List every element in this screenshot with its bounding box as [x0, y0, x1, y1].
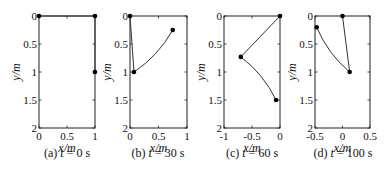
x-tick-label: 1: [92, 130, 98, 142]
y-tick-label: 0: [32, 10, 38, 22]
node-marker: [278, 14, 283, 19]
caption-d: (d) t = 100 s: [314, 146, 373, 161]
x-tick-label: 0.5: [363, 130, 377, 142]
node-marker: [170, 28, 175, 33]
node-marker: [132, 70, 137, 75]
x-tick-label: 0: [36, 130, 42, 142]
y-axis-label: y/m: [9, 63, 23, 82]
cable-segment-1: [343, 16, 350, 72]
caption-d-value: = 100 s: [337, 146, 372, 160]
y-tick-label: 0: [217, 10, 223, 22]
y-tick-label: 1.5: [299, 94, 313, 106]
caption-a-value: = 0 s: [67, 146, 90, 160]
x-tick-label: -1: [219, 130, 228, 142]
caption-c-value: = 60 s: [249, 146, 278, 160]
y-tick-label: 1: [217, 66, 223, 78]
node-marker: [274, 98, 279, 103]
cable-segment-2: [134, 30, 173, 72]
x-tick-label: -0.5: [306, 130, 324, 142]
y-tick-label: 1: [32, 66, 38, 78]
panel-c: 00.511.52-1-0.50x/my/m: [194, 10, 283, 155]
x-tick-label: 0: [277, 130, 283, 142]
caption-c-var: t: [242, 146, 245, 160]
caption-b-label: (b): [132, 146, 146, 160]
caption-a-var: t: [60, 146, 63, 160]
node-marker: [239, 55, 244, 60]
y-axis-label: y/m: [285, 63, 299, 82]
caption-a: (a) t = 0 s: [44, 146, 90, 161]
caption-b-value: = 30 s: [155, 146, 184, 160]
panel-b: 00.511.5200.51x/my/m: [100, 10, 190, 155]
y-tick-label: 1: [123, 66, 129, 78]
cable-segment-2: [241, 57, 276, 100]
caption-c-label: (c): [226, 146, 239, 160]
y-tick-label: 1: [308, 66, 314, 78]
node-marker: [128, 14, 133, 19]
axes-box: [39, 16, 95, 128]
caption-d-var: t: [331, 146, 334, 160]
y-axis-label: y/m: [100, 63, 114, 82]
node-marker: [340, 14, 345, 19]
node-marker: [93, 70, 98, 75]
panel-a: 00.511.5200.51x/my/m: [9, 10, 98, 155]
y-tick-label: 0.5: [23, 38, 37, 50]
caption-c: (c) t = 60 s: [226, 146, 278, 161]
y-tick-label: 1.5: [208, 94, 222, 106]
x-tick-label: 0: [127, 130, 133, 142]
y-axis-label: y/m: [194, 63, 208, 82]
caption-d-label: (d): [314, 146, 328, 160]
y-tick-label: 0.5: [299, 38, 313, 50]
node-marker: [347, 70, 352, 75]
y-tick-label: 0: [123, 10, 129, 22]
caption-a-label: (a): [44, 146, 57, 160]
x-tick-label: 1: [184, 130, 190, 142]
y-tick-label: 0: [308, 10, 314, 22]
cable-segment-1: [241, 16, 280, 57]
y-tick-label: 1.5: [23, 94, 37, 106]
node-marker: [37, 14, 42, 19]
caption-b: (b) t = 30 s: [132, 146, 185, 161]
node-marker: [93, 14, 98, 19]
axes-box: [224, 16, 280, 128]
figure: 00.511.5200.51x/my/m00.511.5200.51x/my/m…: [0, 0, 392, 182]
y-tick-label: 0.5: [208, 38, 222, 50]
caption-b-var: t: [149, 146, 152, 160]
axes-box: [130, 16, 187, 128]
node-marker: [314, 25, 319, 30]
y-tick-label: 1.5: [114, 94, 128, 106]
panel-d: 00.511.52-0.500.5x/my/m: [285, 10, 377, 155]
axes-box: [315, 16, 370, 128]
y-tick-label: 0.5: [114, 38, 128, 50]
